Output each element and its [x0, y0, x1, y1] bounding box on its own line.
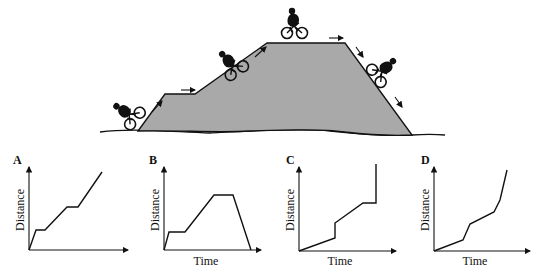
- panel-label-d: D: [421, 153, 430, 167]
- distance-time-line: [164, 195, 251, 250]
- x-axis-label: Time: [328, 254, 353, 268]
- hill-shape: [138, 43, 412, 135]
- distance-time-line: [434, 170, 507, 251]
- y-axis-label: Distance: [148, 189, 162, 231]
- graph-c: C Distance Time: [283, 153, 396, 268]
- x-axis-label: Time: [463, 254, 488, 268]
- y-axis-label: Distance: [418, 189, 432, 231]
- diagram-canvas: A Distance B Distance Time C Distance Ti…: [0, 0, 547, 278]
- graph-b: B Distance Time: [148, 153, 261, 268]
- graph-a: A Distance: [13, 153, 128, 250]
- distance-time-line: [299, 164, 376, 251]
- panel-label-a: A: [13, 153, 22, 167]
- y-axis-label: Distance: [13, 189, 27, 231]
- distance-time-line: [29, 172, 102, 250]
- graph-d: D Distance Time: [418, 153, 530, 268]
- hill-scene: [100, 8, 445, 136]
- panel-label-c: C: [286, 153, 295, 167]
- cyclist-top: [282, 8, 308, 39]
- x-axis-label: Time: [194, 254, 219, 268]
- y-axis-label: Distance: [283, 189, 297, 231]
- panel-label-b: B: [149, 153, 157, 167]
